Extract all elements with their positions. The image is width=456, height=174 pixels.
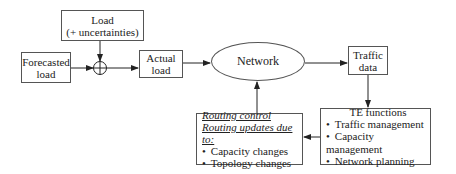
list-item: Capacity management (326, 130, 430, 155)
list-item: Traffic management (326, 118, 430, 131)
traffic-data-box: Traffic data (348, 46, 388, 75)
routing-control-box: Routing control Routing updates due to: … (196, 113, 303, 165)
actual-load-label: load (152, 64, 171, 76)
te-functions-list: Traffic management Capacity management N… (326, 118, 430, 168)
actual-label: Actual (146, 52, 175, 64)
network-label: Network (237, 54, 279, 69)
network-ellipse: Network (211, 42, 305, 81)
te-functions-box: TE functions Traffic management Capacity… (320, 108, 431, 165)
traffic-data-label: data (359, 61, 377, 73)
routing-updates-list: Capacity changes Topology changes (202, 145, 291, 170)
forecasted-label: Forecasted (22, 56, 70, 68)
traffic-label: Traffic (353, 49, 383, 61)
load-box: Load (+ uncertainties) (61, 10, 144, 41)
list-item: Network planning (326, 155, 430, 168)
actual-load-box: Actual load (139, 50, 183, 78)
te-functions-title: TE functions (349, 106, 406, 118)
forecasted-load-box: Forecasted load (21, 52, 71, 83)
routing-updates-title: Routing updates due to: (202, 121, 302, 145)
load-uncertainties-label: (+ uncertainties) (66, 26, 138, 38)
list-item: Topology changes (202, 157, 291, 170)
load-label: Load (91, 14, 114, 26)
forecasted-load-label: load (37, 68, 56, 80)
list-item: Capacity changes (202, 145, 291, 158)
routing-control-title: Routing control (202, 109, 271, 121)
